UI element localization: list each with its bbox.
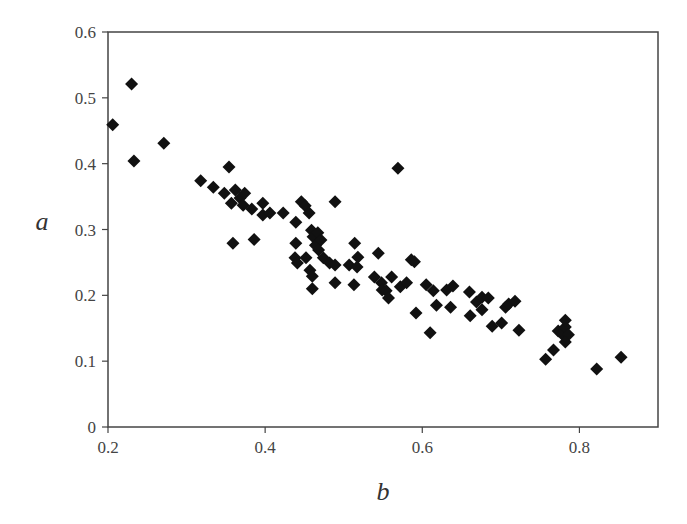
plot-frame (108, 32, 658, 427)
diamond-marker (372, 247, 385, 260)
x-tick-label: 0.6 (412, 438, 433, 457)
diamond-marker (615, 351, 628, 364)
x-tick-label: 0.2 (97, 438, 118, 457)
diamond-marker (125, 78, 138, 91)
diamond-marker (351, 251, 364, 264)
diamond-marker (256, 197, 269, 210)
diamond-marker (463, 286, 476, 299)
diamond-marker (512, 324, 525, 337)
y-tick-label: 0.5 (75, 89, 96, 108)
diamond-marker (385, 270, 398, 283)
diamond-marker (277, 207, 290, 220)
diamond-marker (444, 301, 457, 314)
diamond-marker (410, 307, 423, 320)
diamond-marker (248, 233, 261, 246)
diamond-marker (329, 195, 342, 208)
diamond-marker (347, 278, 360, 291)
diamond-marker (329, 276, 342, 289)
y-tick-label: 0.3 (75, 221, 96, 240)
diamond-marker (289, 216, 302, 229)
scatter-chart: 0.20.40.60.8 00.10.20.30.40.50.6 b a (0, 0, 687, 524)
diamond-marker (207, 181, 220, 194)
diamond-marker (464, 309, 477, 322)
x-tick-label: 0.4 (255, 438, 277, 457)
diamond-marker (424, 326, 437, 339)
x-axis-ticks: 0.20.40.60.8 (97, 427, 590, 457)
diamond-marker (391, 162, 404, 175)
diamond-marker (223, 160, 236, 173)
y-tick-label: 0.1 (75, 352, 96, 371)
x-tick-label: 0.8 (569, 438, 590, 457)
diamond-marker (226, 237, 239, 250)
diamond-marker (127, 155, 140, 168)
diamond-marker (218, 187, 231, 200)
diamond-marker (289, 237, 302, 250)
diamond-marker (194, 174, 207, 187)
diamond-marker (157, 137, 170, 150)
diamond-marker (539, 353, 552, 366)
y-tick-label: 0 (88, 418, 97, 437)
diamond-marker (559, 314, 572, 327)
data-points (106, 78, 627, 376)
y-tick-label: 0.2 (75, 286, 96, 305)
y-axis-ticks: 00.10.20.30.40.50.6 (75, 23, 108, 437)
diamond-marker (348, 237, 361, 250)
y-tick-label: 0.6 (75, 23, 96, 42)
diamond-marker (306, 282, 319, 295)
diamond-marker (547, 343, 560, 356)
diamond-marker (430, 299, 443, 312)
diamond-marker (590, 363, 603, 376)
x-axis-title: b (377, 477, 390, 506)
y-axis-title: a (36, 207, 49, 236)
y-tick-label: 0.4 (75, 155, 97, 174)
